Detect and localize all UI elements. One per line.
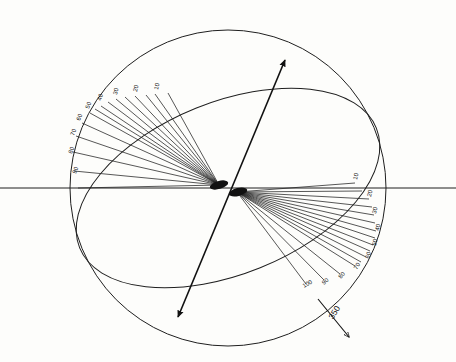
orbital-diagram-figure: 10 20 30 40 50 60 70 80 90 10 20 30 40 5… xyxy=(0,0,456,362)
figure-background xyxy=(0,0,456,362)
